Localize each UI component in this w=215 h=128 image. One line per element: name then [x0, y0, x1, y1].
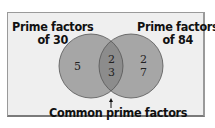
left-set-label: Prime factors of 30 [12, 20, 94, 46]
left-only-element: 5 [74, 61, 81, 73]
right-set-label-line2: of 84 [137, 33, 215, 46]
right-set-label: Prime factors of 84 [137, 20, 215, 46]
intersection-element: 2 [108, 54, 115, 66]
right-only-element: 2 [140, 54, 147, 66]
left-set-label-line2: of 30 [12, 33, 94, 46]
right-only-element: 7 [140, 67, 147, 79]
intersection-element: 3 [108, 67, 115, 79]
intersection-label: Common prime factors [49, 106, 187, 119]
